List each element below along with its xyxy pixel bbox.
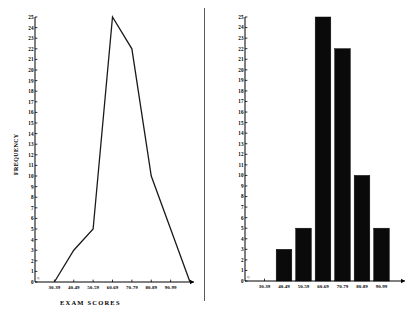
svg-text:80-89: 80-89	[145, 285, 157, 290]
svg-text:70-79: 70-79	[126, 285, 138, 290]
svg-text:0: 0	[31, 279, 34, 285]
svg-text:60-69: 60-69	[107, 285, 119, 290]
svg-text:0: 0	[246, 275, 251, 280]
svg-text:23: 23	[238, 35, 244, 41]
svg-text:16: 16	[28, 109, 34, 115]
svg-text:7: 7	[241, 204, 244, 210]
svg-text:23: 23	[28, 35, 34, 41]
svg-text:5: 5	[31, 226, 34, 232]
svg-text:19: 19	[28, 78, 34, 84]
svg-text:3: 3	[241, 246, 244, 252]
frequency-polygon-plot: 0123456789101112131415161718192021222324…	[0, 0, 209, 319]
svg-text:90-99: 90-99	[165, 285, 177, 290]
histogram-plot: 0123456789101112131415161718192021222324…	[209, 0, 419, 319]
svg-text:3: 3	[31, 247, 34, 253]
svg-text:12: 12	[238, 151, 244, 157]
two-panel-chart-figure: FREQUENCY EXAM SCORES 012345678910111213…	[0, 0, 419, 319]
svg-text:0: 0	[36, 276, 41, 281]
svg-text:30-39: 30-39	[259, 284, 271, 289]
svg-text:4: 4	[31, 237, 34, 243]
svg-text:17: 17	[28, 99, 34, 105]
histogram-panel: FREQUENCY EXAM SCORES 012345678910111213…	[209, 0, 419, 319]
frequency-polygon-panel: FREQUENCY EXAM SCORES 012345678910111213…	[0, 0, 209, 319]
svg-text:40-49: 40-49	[68, 285, 80, 290]
svg-text:16: 16	[238, 109, 244, 115]
svg-text:5: 5	[241, 225, 244, 231]
svg-text:60-69: 60-69	[317, 284, 329, 289]
svg-text:0: 0	[241, 278, 244, 284]
svg-text:7: 7	[31, 205, 34, 211]
svg-text:80-89: 80-89	[356, 284, 368, 289]
svg-text:4: 4	[241, 236, 244, 242]
svg-text:90-99: 90-99	[376, 284, 388, 289]
svg-text:1: 1	[241, 267, 244, 273]
svg-text:13: 13	[238, 141, 244, 147]
svg-text:9: 9	[241, 183, 244, 189]
svg-text:2: 2	[31, 258, 34, 264]
svg-text:2: 2	[241, 257, 244, 263]
svg-text:50-59: 50-59	[298, 284, 310, 289]
svg-text:8: 8	[31, 194, 34, 200]
svg-text:14: 14	[28, 131, 34, 137]
svg-text:15: 15	[28, 120, 34, 126]
svg-text:20: 20	[28, 67, 34, 73]
svg-text:22: 22	[28, 46, 34, 52]
svg-text:14: 14	[238, 130, 244, 136]
svg-text:25: 25	[28, 14, 34, 20]
svg-text:13: 13	[28, 141, 34, 147]
svg-text:18: 18	[238, 88, 244, 94]
svg-text:25: 25	[238, 14, 244, 20]
svg-text:11: 11	[29, 162, 34, 168]
svg-text:9: 9	[31, 184, 34, 190]
svg-text:12: 12	[28, 152, 34, 158]
svg-text:50-59: 50-59	[87, 285, 99, 290]
svg-text:15: 15	[238, 120, 244, 126]
svg-text:30-39: 30-39	[49, 285, 61, 290]
svg-text:8: 8	[241, 193, 244, 199]
svg-text:20: 20	[238, 67, 244, 73]
svg-text:6: 6	[241, 215, 244, 221]
svg-text:11: 11	[239, 162, 244, 168]
svg-text:70-79: 70-79	[337, 284, 349, 289]
svg-text:6: 6	[31, 215, 34, 221]
svg-text:10: 10	[28, 173, 34, 179]
svg-text:19: 19	[238, 77, 244, 83]
panel-divider	[204, 8, 205, 301]
svg-text:17: 17	[238, 98, 244, 104]
svg-text:22: 22	[238, 46, 244, 52]
svg-text:21: 21	[238, 56, 244, 62]
svg-text:24: 24	[28, 25, 34, 31]
svg-text:10: 10	[238, 172, 244, 178]
svg-text:40-49: 40-49	[278, 284, 290, 289]
svg-text:24: 24	[238, 24, 244, 30]
svg-text:21: 21	[28, 56, 34, 62]
svg-text:1: 1	[31, 268, 34, 274]
svg-text:18: 18	[28, 88, 34, 94]
